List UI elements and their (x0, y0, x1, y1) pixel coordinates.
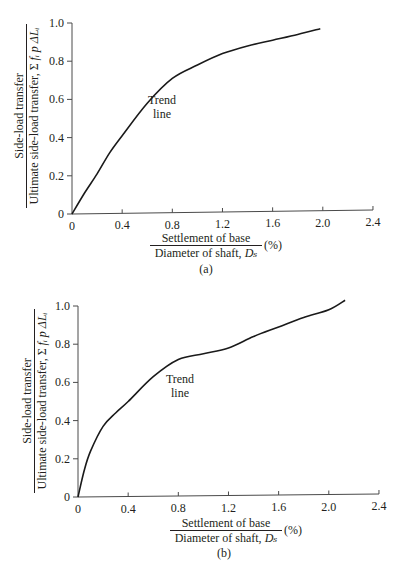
y-tick-label: 0.8 (49, 54, 64, 68)
x-label-denominator-a: Diameter of shaft, Dₛ (150, 245, 262, 260)
trend-line-label-a-2: line (153, 107, 171, 121)
y-axis-a: 00.20.40.60.81.0 (49, 16, 72, 221)
y-tick-label: 0.2 (55, 452, 70, 466)
trend-line-label-a-1: Trend (148, 93, 176, 107)
x-label-denominator-b: Diameter of shaft, Dₛ (170, 530, 282, 545)
x-tick-label: 0 (75, 502, 81, 516)
y-tick-label: 1.0 (49, 16, 64, 30)
x-axis-b: 00.40.81.21.62.02.4 (75, 490, 386, 516)
caption-b: (b) (204, 546, 244, 561)
y-tick-label: 0.4 (55, 414, 70, 428)
trend-line-label-b-1: Trend (166, 372, 194, 386)
x-tick-label: 2.4 (371, 499, 386, 513)
y-tick-label: 0.4 (49, 131, 64, 145)
x-label-numerator-b: Settlement of base (170, 516, 282, 530)
x-tick-label: 0.4 (115, 218, 130, 232)
y-tick-label: 1.0 (55, 299, 70, 313)
y-label-numerator-a: Side-load transfer (12, 24, 26, 208)
y-tick-label: 0.8 (55, 337, 70, 351)
x-label-numerator-a: Settlement of base (150, 231, 262, 245)
caption-a: (a) (186, 262, 226, 277)
x-tick-label: 0 (69, 219, 75, 233)
x-tick-label: 1.6 (265, 216, 280, 230)
x-axis-label-b: Settlement of base Diameter of shaft, Dₛ (170, 516, 282, 545)
y-tick-label: 0 (64, 490, 70, 504)
y-axis-label-a: Side-load transfer Ultimate side-load tr… (12, 24, 41, 208)
x-unit-b: (%) (284, 523, 302, 538)
x-tick-label: 2.0 (315, 216, 330, 230)
trend-line-label-b-2: line (171, 386, 189, 400)
x-tick-label: 0.8 (165, 218, 180, 232)
x-tick-label: 2.0 (321, 500, 336, 514)
x-axis-a: 00.40.81.21.62.02.4 (69, 206, 380, 233)
y-label-denominator-a: Ultimate side-load transfer, Σ fᵢ p ΔLᵢ (26, 24, 41, 208)
x-unit-a: (%) (264, 238, 282, 253)
y-tick-label: 0.2 (49, 169, 64, 183)
x-tick-label: 1.2 (221, 501, 236, 515)
x-tick-label: 1.6 (271, 500, 286, 514)
x-axis-label-a: Settlement of base Diameter of shaft, Dₛ (150, 231, 262, 260)
y-tick-label: 0.6 (55, 375, 70, 389)
y-label-numerator-b: Side-load transfer (20, 309, 34, 493)
y-axis-b: 00.20.40.60.81.0 (55, 299, 78, 504)
chart-panel-b: 00.20.40.60.81.0 00.40.81.21.62.02.4 Tre… (0, 283, 403, 573)
x-tick-label: 2.4 (365, 215, 380, 229)
trend-line-curve-b (78, 300, 345, 497)
x-tick-label: 1.2 (215, 217, 230, 231)
trend-line-curve-a (72, 29, 320, 214)
x-tick-label: 0.8 (171, 501, 186, 515)
y-label-denominator-b: Ultimate side-load transfer, Σ fᵢ p ΔLᵢ (34, 309, 49, 493)
y-axis-label-b: Side-load transfer Ultimate side-load tr… (20, 309, 49, 493)
y-tick-label: 0.6 (49, 92, 64, 106)
x-tick-label: 0.4 (121, 502, 136, 516)
chart-panel-a: 00.20.40.60.81.0 00.40.81.21.62.02.4 Tre… (0, 0, 403, 283)
y-tick-label: 0 (58, 207, 64, 221)
